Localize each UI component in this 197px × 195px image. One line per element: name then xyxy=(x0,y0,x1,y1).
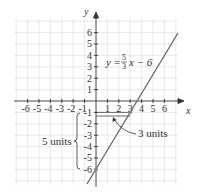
x-axis-arrow-icon xyxy=(178,99,184,104)
graph: x y -6 -5 -4 -3 -2 -1 1 2 3 4 5 6 6 5 4 … xyxy=(0,0,197,195)
svg-text:3: 3 xyxy=(122,62,126,71)
svg-text:y: y xyxy=(105,56,111,68)
svg-text:2: 2 xyxy=(87,73,92,84)
svg-text:1: 1 xyxy=(87,84,92,95)
svg-text:-6: -6 xyxy=(84,164,92,175)
y-axis-arrow-icon xyxy=(94,12,99,18)
point-y-intercept xyxy=(94,168,98,172)
svg-text:=: = xyxy=(114,56,120,68)
svg-text:5: 5 xyxy=(87,38,92,49)
svg-text:-6: -6 xyxy=(21,103,29,114)
brace-5-units xyxy=(74,113,80,169)
annotation-5-units: 5 units xyxy=(42,135,72,147)
svg-text:-3: -3 xyxy=(84,130,92,141)
svg-text:3: 3 xyxy=(87,61,92,72)
svg-text:6: 6 xyxy=(162,103,167,114)
svg-text:-3: -3 xyxy=(56,103,64,114)
svg-text:-1: -1 xyxy=(84,107,92,118)
x-axis-label: x xyxy=(185,105,191,116)
svg-text:-2: -2 xyxy=(67,103,75,114)
svg-text:5: 5 xyxy=(151,103,156,114)
svg-text:-4: -4 xyxy=(84,141,92,152)
point-3-neg1 xyxy=(128,111,132,115)
y-axis-label: y xyxy=(83,6,89,17)
svg-text:x − 6: x − 6 xyxy=(128,56,153,68)
svg-text:4: 4 xyxy=(87,50,92,61)
svg-text:4: 4 xyxy=(139,103,144,114)
svg-text:6: 6 xyxy=(87,27,92,38)
svg-text:-4: -4 xyxy=(44,103,52,114)
svg-text:5: 5 xyxy=(122,53,126,62)
svg-text:-5: -5 xyxy=(33,103,41,114)
axes xyxy=(14,12,184,187)
svg-text:-2: -2 xyxy=(84,118,92,129)
annotation-3-units: 3 units xyxy=(138,127,168,139)
svg-text:-5: -5 xyxy=(84,152,92,163)
